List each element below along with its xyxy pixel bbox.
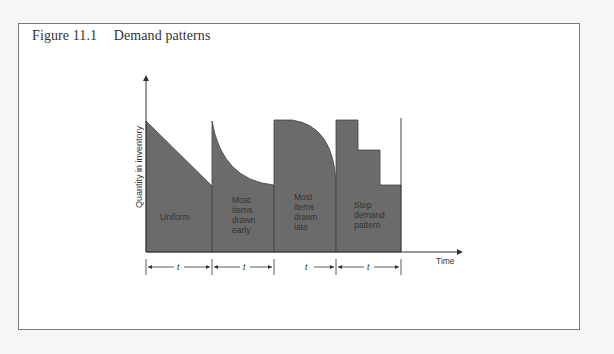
period-markers bbox=[146, 259, 401, 275]
period-label-2: t bbox=[243, 262, 246, 272]
period-label-4: t bbox=[367, 262, 370, 272]
period-label-1: t bbox=[177, 262, 180, 272]
label-uniform: Uniform bbox=[160, 212, 190, 222]
period-label-3: t bbox=[305, 262, 308, 272]
y-axis-label: Quantity in inventory bbox=[134, 125, 144, 208]
segment-uniform bbox=[146, 121, 212, 252]
segment-drawn-late bbox=[274, 120, 336, 252]
demand-pattern-diagram: Quantity in inventory Time Uniform Most … bbox=[0, 0, 614, 354]
segment-step-demand bbox=[336, 120, 401, 252]
x-axis-label: Time bbox=[436, 256, 455, 266]
